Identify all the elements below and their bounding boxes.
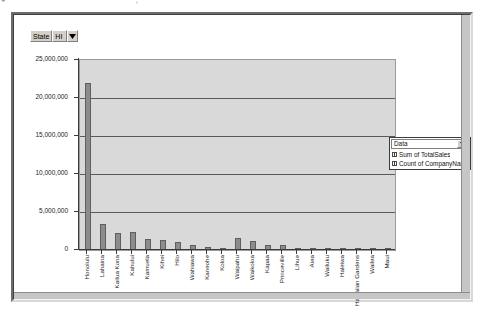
y-axis-line	[78, 58, 79, 250]
x-axis-tick-label: Waipahu	[234, 255, 240, 279]
chart-window-frame: State HI 25,000,00020,000,00015,000,0001…	[11, 12, 473, 302]
bar-slot	[335, 60, 350, 250]
bar-slot	[275, 60, 290, 250]
x-axis-tick-label: Wailea	[369, 255, 375, 274]
x-axis-tick-label: Maui	[384, 255, 390, 268]
x-tick-slot	[109, 250, 124, 254]
x-label-slot: Kapaa	[259, 255, 274, 311]
x-axis-tick	[131, 250, 132, 254]
x-axis-tick	[116, 250, 117, 254]
y-axis-tick-label: 20,000,000	[35, 94, 68, 100]
plot-wrapper: 25,000,00020,000,00015,000,00010,000,000…	[16, 17, 457, 295]
right-gutter[interactable]	[461, 15, 470, 299]
x-tick-slot	[199, 250, 214, 254]
x-axis-tick	[386, 250, 387, 254]
x-tick-slot	[274, 250, 289, 254]
bar[interactable]	[100, 224, 106, 250]
x-axis-tick	[221, 250, 222, 254]
x-label-slot: Kahului	[124, 255, 139, 311]
bar-slot	[215, 60, 230, 250]
x-axis-tick	[176, 250, 177, 254]
x-label-slot: Waipahu	[229, 255, 244, 311]
x-tick-slot	[214, 250, 229, 254]
y-axis-labels: 25,000,00020,000,00015,000,00010,000,000…	[16, 17, 75, 295]
x-label-slot: Wailea	[364, 255, 379, 311]
series-swatch-icon	[392, 161, 397, 166]
x-axis-tick	[266, 250, 267, 254]
legend-entry-label: Sum of TotalSales	[399, 151, 450, 159]
x-label-slot: Haleiwa	[334, 255, 349, 311]
bar[interactable]	[130, 232, 136, 250]
x-tick-slot	[244, 250, 259, 254]
bar-slot	[125, 60, 140, 250]
x-axis-tick-label: Kamuela	[144, 255, 150, 279]
x-tick-slot	[169, 250, 184, 254]
x-axis-tick-label: Waikoloa	[249, 255, 255, 280]
x-tick-slot	[154, 250, 169, 254]
x-label-slot: Wailuku	[319, 255, 334, 311]
x-tick-slot	[334, 250, 349, 254]
x-axis-tick	[341, 250, 342, 254]
x-axis-tick	[161, 250, 162, 254]
x-axis-tick-label: Wahiawa	[189, 255, 195, 280]
x-tick-slot	[379, 250, 394, 254]
x-tick-slot	[139, 250, 154, 254]
x-label-slot: Hilo	[169, 255, 184, 311]
bottom-gutter[interactable]	[14, 292, 470, 299]
x-label-slot: Kamuela	[139, 255, 154, 311]
bar[interactable]	[85, 83, 91, 250]
x-label-slot: Waikoloa	[244, 255, 259, 311]
bar-slot	[110, 60, 125, 250]
bar-slot	[350, 60, 365, 250]
bar-slot	[230, 60, 245, 250]
x-axis-tick	[281, 250, 282, 254]
x-label-slot: Kaneohe	[199, 255, 214, 311]
bar-slot	[155, 60, 170, 250]
legend-box[interactable]: Data Sum of TotalSalesCount of CompanyNa…	[389, 137, 471, 170]
x-axis-tick	[296, 250, 297, 254]
x-axis-tick-label: Kahului	[129, 255, 135, 276]
x-axis-tick	[146, 250, 147, 254]
bar-slot	[290, 60, 305, 250]
x-axis-tick	[206, 250, 207, 254]
x-axis-tick	[86, 250, 87, 254]
x-label-slot: Aiea	[304, 255, 319, 311]
x-label-slot: Lahaina	[94, 255, 109, 311]
bar[interactable]	[115, 233, 121, 250]
x-axis-tick-label: Kailua Kona	[114, 255, 120, 288]
x-axis-tick-label: Princeville	[279, 255, 285, 283]
x-label-slot: Lihue	[289, 255, 304, 311]
y-axis-tick-label: 15,000,000	[35, 132, 68, 138]
y-axis-tick-label: 0	[64, 246, 68, 252]
y-axis-tick-label: 5,000,000	[39, 208, 68, 214]
x-tick-slot	[229, 250, 244, 254]
pivot-chart: State HI 25,000,00020,000,00015,000,0001…	[16, 17, 457, 295]
legend-field-header[interactable]: Data	[391, 139, 469, 149]
ghost-mark-right: ¦	[136, 0, 138, 3]
x-label-slot: Maui	[379, 255, 394, 311]
x-tick-slot	[124, 250, 139, 254]
x-axis-tick	[251, 250, 252, 254]
x-axis-tick-label: Haleiwa	[339, 255, 345, 277]
x-tick-slot	[304, 250, 319, 254]
x-axis-tick-label: Honolulu	[84, 255, 90, 279]
x-axis-ticks	[79, 250, 394, 254]
x-tick-slot	[289, 250, 304, 254]
bar-slot	[140, 60, 155, 250]
x-tick-slot	[319, 250, 334, 254]
x-axis-tick-label: Hilo	[174, 255, 180, 266]
x-tick-slot	[184, 250, 199, 254]
bar-slot	[95, 60, 110, 250]
x-axis-tick-label: Wailuku	[324, 255, 330, 277]
legend-title: Data	[392, 140, 457, 148]
bar-slot	[365, 60, 380, 250]
x-axis-tick	[326, 250, 327, 254]
x-label-slot: Princeville	[274, 255, 289, 311]
legend-entry[interactable]: Count of CompanyName	[391, 159, 469, 168]
legend-entry-label: Count of CompanyName	[399, 160, 468, 168]
legend-entry[interactable]: Sum of TotalSales	[391, 150, 469, 159]
x-axis-tick-label: Kaneohe	[204, 255, 210, 280]
x-label-slot: Hawaiian Gardens	[349, 255, 364, 311]
x-axis-tick	[101, 250, 102, 254]
series-swatch-icon	[392, 152, 397, 157]
